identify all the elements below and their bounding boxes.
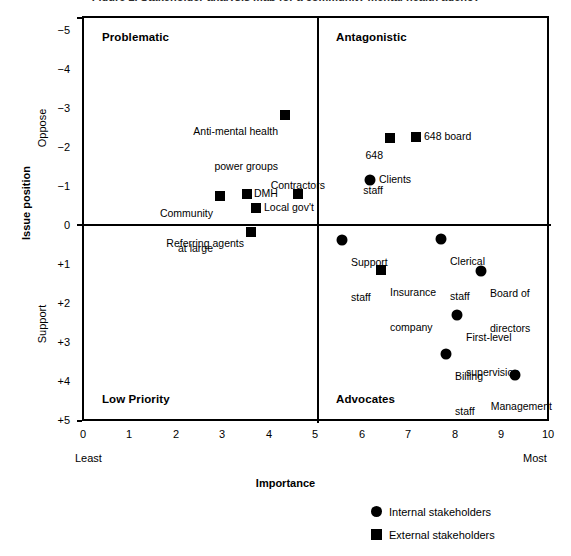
label-line: Insurance	[390, 287, 436, 299]
figure-title: Figure 2. Stakeholder analysis map for a…	[0, 0, 571, 1]
x-tick-label: 3	[207, 429, 237, 440]
data-point-board-of-directors[interactable]	[476, 266, 487, 277]
x-axis-most-label: Most	[523, 452, 547, 464]
circle-marker-icon	[371, 506, 382, 517]
data-point-referring-agents[interactable]	[246, 227, 256, 237]
label-line: First-level	[466, 332, 519, 344]
data-label-referring-agents: Referring agents	[144, 226, 244, 261]
data-point-support-staff[interactable]	[337, 235, 348, 246]
y-tick-label: +1	[44, 259, 70, 270]
data-label-648-staff: 648 staff	[332, 127, 383, 219]
data-point-billing-staff[interactable]	[441, 349, 452, 360]
data-point-community-at-large[interactable]	[215, 191, 225, 201]
legend-item-internal[interactable]: Internal stakeholders	[371, 500, 495, 523]
data-label-support-staff: Support staff	[351, 234, 388, 326]
legend-label-internal: Internal stakeholders	[389, 506, 491, 518]
legend-item-external[interactable]: External stakeholders	[371, 523, 495, 546]
x-tick-label: 6	[347, 429, 377, 440]
x-axis-least-label: Least	[75, 452, 102, 464]
data-label-contractors: Contractors	[259, 168, 325, 203]
quadrant-divider-vertical	[317, 18, 319, 423]
x-tick-label: 9	[486, 429, 516, 440]
label-line: Community	[140, 208, 213, 220]
data-label-management: Management	[479, 389, 552, 424]
x-tick-label: 7	[393, 429, 423, 440]
data-label-clients: Clients	[379, 174, 411, 186]
quadrant-label-problematic: Problematic	[102, 31, 169, 43]
y-tick-label: +3	[44, 337, 70, 348]
y-tick-label: −1	[44, 181, 70, 192]
label-line: staff	[351, 292, 388, 304]
x-tick-label: 2	[161, 429, 191, 440]
label-line: Contractors	[271, 179, 325, 191]
legend: Internal stakeholders External stakehold…	[371, 500, 495, 546]
label-line: Billing	[455, 371, 483, 383]
label-line: Anti-mental health	[160, 126, 278, 138]
label-line: Referring agents	[166, 237, 244, 249]
x-tick-label: 5	[300, 429, 330, 440]
label-line: staff	[450, 291, 485, 303]
y-tick-label: +2	[44, 298, 70, 309]
quadrant-label-antagonistic: Antagonistic	[336, 31, 407, 43]
data-point-local-govt[interactable]	[251, 203, 261, 213]
x-tick-label: 0	[68, 429, 98, 440]
data-point-clerical-staff[interactable]	[436, 234, 447, 245]
y-tick-label: 0	[44, 220, 70, 231]
data-point-648-board[interactable]	[411, 132, 421, 142]
data-point-648-staff[interactable]	[385, 133, 395, 143]
x-tick-label: 1	[114, 429, 144, 440]
y-axis-title: Issue position	[20, 143, 32, 263]
data-point-first-level-supervision[interactable]	[452, 310, 463, 321]
x-tick-label: 10	[533, 429, 563, 440]
data-point-clients[interactable]	[365, 175, 376, 186]
x-axis-title: Importance	[0, 477, 571, 489]
data-label-local-govt: Local gov't	[264, 202, 314, 214]
label-line: Board of	[490, 288, 530, 300]
label-line: staff	[332, 185, 383, 197]
y-tick-label: +5	[44, 415, 70, 426]
data-point-dmh[interactable]	[242, 189, 252, 199]
label-line: Support	[351, 257, 388, 269]
label-line: Management	[491, 400, 552, 412]
x-tick-label: 4	[254, 429, 284, 440]
y-tick-label: +4	[44, 376, 70, 387]
label-line: company	[390, 322, 436, 334]
data-label-insurance-company: Insurance company	[390, 264, 436, 356]
square-marker-icon	[371, 529, 382, 540]
x-tick-label: 8	[440, 429, 470, 440]
y-tick-label: −5	[44, 25, 70, 36]
plot-area: Problematic Antagonistic Low Priority Ad…	[82, 16, 549, 421]
data-point-management[interactable]	[510, 370, 521, 381]
y-tick-label: −2	[44, 142, 70, 153]
y-tick-label: −3	[44, 103, 70, 114]
legend-label-external: External stakeholders	[389, 529, 495, 541]
y-tick-label: −4	[44, 64, 70, 75]
label-line: 648	[332, 150, 383, 162]
quadrant-label-advocates: Advocates	[336, 393, 395, 405]
data-point-anti-mental-health-power-groups[interactable]	[280, 110, 290, 120]
data-label-648-board: 648 board	[424, 131, 471, 143]
quadrant-label-low-priority: Low Priority	[102, 393, 170, 405]
